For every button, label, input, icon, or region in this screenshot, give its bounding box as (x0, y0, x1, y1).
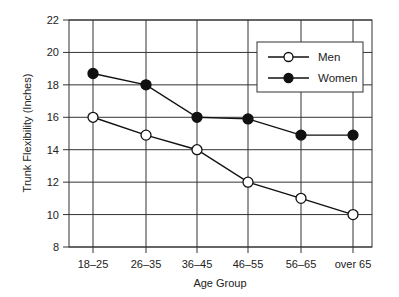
x-tick-label: 26–35 (131, 258, 162, 270)
data-point-women (348, 130, 358, 140)
data-point-women (192, 112, 202, 122)
line-chart: 810121416182022 18–2526–3536–4546–5556–6… (0, 0, 399, 297)
x-axis-ticks: 18–2526–3536–4546–5556–65over 65 (78, 258, 372, 270)
data-point-women (296, 130, 306, 140)
x-tick-label: 36–45 (182, 258, 213, 270)
legend: Men Women (257, 42, 363, 92)
y-tick-label: 22 (47, 14, 59, 26)
x-tick-label: over 65 (335, 258, 372, 270)
y-tick-label: 18 (47, 79, 59, 91)
data-point-men (192, 145, 202, 155)
data-point-women (88, 69, 98, 79)
legend-women-label: Women (318, 72, 357, 84)
y-axis-label: Trunk Flexibility (Inches) (21, 74, 33, 193)
data-point-men (348, 210, 358, 220)
legend-women-marker-icon (284, 74, 293, 83)
legend-men-marker-icon (284, 53, 293, 62)
y-tick-label: 20 (47, 46, 59, 58)
data-point-men (296, 193, 306, 203)
legend-men-label: Men (318, 51, 340, 63)
data-point-men (141, 130, 151, 140)
data-point-women (141, 80, 151, 90)
y-tick-label: 16 (47, 111, 59, 123)
x-tick-label: 18–25 (78, 258, 109, 270)
y-tick-label: 10 (47, 209, 59, 221)
y-tick-label: 8 (53, 241, 59, 253)
data-point-women (243, 114, 253, 124)
series-line-men (93, 117, 353, 214)
x-axis-label: Age Group (193, 277, 246, 289)
y-axis-ticks: 810121416182022 (47, 14, 59, 253)
data-point-men (88, 112, 98, 122)
x-tick-label: 46–55 (233, 258, 264, 270)
x-tick-label: 56–65 (286, 258, 317, 270)
data-point-men (243, 177, 253, 187)
legend-box (257, 42, 363, 92)
y-tick-label: 14 (47, 144, 59, 156)
y-tick-label: 12 (47, 176, 59, 188)
